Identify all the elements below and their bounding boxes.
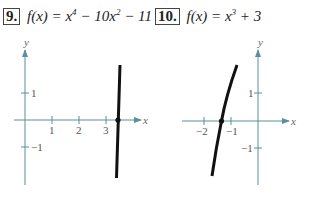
y-axis-label: y [257,36,263,48]
x-tick-label: 2 [76,124,82,136]
x-tick-label: 3 [103,124,109,136]
graph-9: y x 1 2 3 1 −1 [14,36,148,185]
zero-point [115,117,120,122]
x-tick-label: −1 [226,125,238,137]
y-tick-label: −1 [31,141,43,153]
y-tick-label: −1 [241,142,253,154]
y-tick-label: 1 [248,87,254,99]
x-tick-label: −2 [196,125,208,137]
x-tick-label: 1 [49,124,55,136]
x-axis-label: x [290,115,296,127]
x-axis-label: x [142,114,148,126]
y-tick-label: 1 [31,87,37,99]
y-axis-label: y [23,36,29,48]
graph-10: y x −2 −1 1 −1 [182,36,296,185]
zero-point [219,118,224,123]
graphs-canvas: y x 1 2 3 1 −1 y x −2 −1 1 −1 [0,0,312,198]
